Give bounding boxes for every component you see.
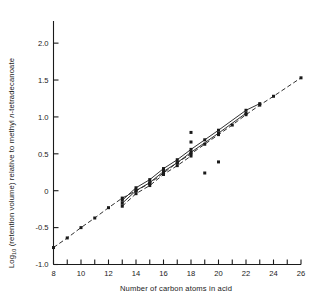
data-point-marker [203, 138, 206, 141]
outlier-point-marker [217, 160, 220, 163]
x-tick-label: 20 [214, 269, 222, 278]
outlier-point-marker [190, 141, 193, 144]
data-point-marker [121, 205, 124, 208]
y-tick-label: 1.0 [38, 113, 49, 122]
svg-text:Log10 (retention volume) relat: Log10 (retention volume) relative to met… [7, 58, 17, 268]
data-point-marker [258, 102, 261, 105]
data-point-marker [148, 178, 151, 181]
y-tick-label: 1.5 [38, 76, 49, 85]
data-point-marker [148, 184, 151, 187]
data-point-marker [176, 158, 179, 161]
y-axis-title-mid: (retention volume) relative to methyl [7, 118, 16, 249]
y-tick-label: -1.0 [35, 260, 48, 269]
y-axis-title: Log10 (retention volume) relative to met… [7, 58, 17, 268]
x-tick-label: 18 [187, 269, 195, 278]
trend-line [122, 156, 191, 206]
x-tick-label: 22 [242, 269, 250, 278]
data-point-marker [162, 167, 165, 170]
x-axis-title: Number of carbon atoms in acid [120, 284, 232, 293]
data-point-marker [80, 226, 83, 229]
x-tick-label: 16 [159, 269, 167, 278]
x-tick-label: 24 [269, 269, 277, 278]
data-point-marker [300, 76, 303, 79]
y-tick-label: 0.5 [38, 150, 49, 159]
data-point-marker [217, 129, 220, 132]
data-point-marker [52, 246, 55, 249]
y-axis-title-pre: Log [7, 255, 16, 268]
data-point-marker [162, 170, 165, 173]
data-point-marker [176, 161, 179, 164]
y-axis-title-post: -tetradecanoate [7, 58, 16, 113]
data-point-marker [135, 192, 138, 195]
data-point-marker [121, 202, 124, 205]
data-point-marker [217, 132, 220, 135]
data-point-marker [66, 236, 69, 239]
x-tick-label: 8 [51, 269, 55, 278]
x-tick-label: 12 [104, 269, 112, 278]
y-tick-label: 2.0 [38, 39, 49, 48]
scatter-plot: Log10 (retention volume) relative to met… [0, 0, 318, 305]
axis-lines [54, 21, 302, 265]
data-point-marker [135, 189, 138, 192]
outlier-point-marker [190, 131, 193, 134]
data-point-marker [245, 109, 248, 112]
data-point-marker [107, 206, 110, 209]
data-point-marker [190, 155, 193, 158]
x-axis-ticks [54, 260, 302, 265]
x-tick-label: 10 [77, 269, 85, 278]
data-point-marker [272, 95, 275, 98]
y-tick-label: -0.5 [35, 223, 48, 232]
data-point-marker [176, 164, 179, 167]
data-point-marker [162, 173, 165, 176]
data-point-marker [93, 217, 96, 220]
data-point-marker [121, 199, 124, 202]
data-point-marker [231, 124, 234, 127]
figure-panel: Log10 (retention volume) relative to met… [0, 0, 318, 305]
x-tick-label: 26 [297, 269, 305, 278]
x-tick-label: 14 [132, 269, 140, 278]
data-point-marker [190, 148, 193, 151]
data-point-marker [148, 181, 151, 184]
data-point-marker [135, 186, 138, 189]
y-axis-ticks [54, 43, 59, 264]
outlier-point-marker [203, 172, 206, 175]
data-point-marker [245, 112, 248, 115]
outlier-data-markers [190, 131, 221, 175]
y-axis-tick-labels: -1.0-0.500.51.01.52.0 [35, 39, 48, 269]
y-tick-label: 0 [44, 187, 48, 196]
data-point-marker [203, 143, 206, 146]
x-axis-tick-labels: 8101214161820222426 [51, 269, 305, 278]
data-point-marker [190, 151, 193, 154]
